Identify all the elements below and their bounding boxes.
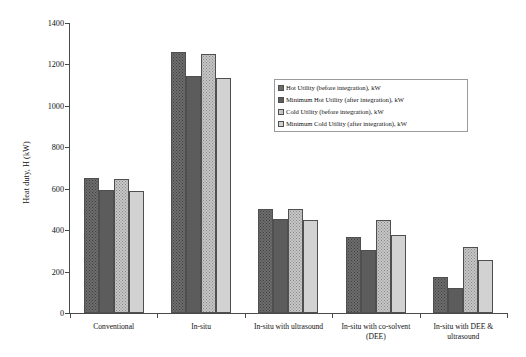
bar: [463, 247, 478, 313]
legend-item: Hot Utility (before integration), kW: [278, 84, 463, 91]
bar: [258, 209, 273, 313]
bar-group: [332, 23, 419, 313]
y-tick-label: 800: [28, 143, 64, 152]
plot-area: [70, 23, 507, 313]
y-tick-label: 1200: [28, 60, 64, 69]
x-tick-label: In-situ with ultrasound: [245, 322, 332, 332]
y-tick-label: 400: [28, 226, 64, 235]
bar-group: [420, 23, 507, 313]
x-tick-mark: [157, 313, 158, 318]
x-tick-label: In-situ: [157, 322, 244, 332]
legend-label: Minimum Cold Utility (after integration)…: [286, 120, 407, 127]
y-tick-label: 1000: [28, 101, 64, 110]
bar: [84, 178, 99, 313]
bar-group: [70, 23, 157, 313]
legend-item: Cold Utility (before integration), kW: [278, 108, 463, 115]
bar: [391, 235, 406, 313]
y-tick-label: 0: [28, 309, 64, 318]
legend-label: Hot Utility (before integration), kW: [286, 84, 381, 91]
bar: [303, 220, 318, 313]
x-tick-mark: [245, 313, 246, 318]
legend-swatch-icon: [278, 85, 284, 91]
bar: [273, 219, 288, 313]
y-tick-label: 1400: [28, 19, 64, 28]
x-tick-label: In-situ with co-solvent (DEE): [332, 322, 419, 341]
bar: [448, 288, 463, 313]
bar: [433, 277, 448, 313]
x-tick-mark: [420, 313, 421, 318]
bar: [346, 237, 361, 313]
bar: [376, 220, 391, 313]
legend-label: Minimum Hot Utility (after integration),…: [286, 96, 404, 103]
bar-group: [245, 23, 332, 313]
x-tick-label: In-situ with DEE & ultrasound: [420, 322, 507, 341]
bar-chart: Heat duty, H (kW) 0200400600800100012001…: [0, 0, 526, 357]
bar: [114, 179, 129, 313]
x-tick-mark: [70, 313, 71, 318]
x-tick-label: Conventional: [70, 322, 157, 332]
legend-label: Cold Utility (before integration), kW: [286, 108, 384, 115]
bar: [478, 260, 493, 313]
bar: [186, 76, 201, 313]
legend-swatch-icon: [278, 109, 284, 115]
y-tick-label: 200: [28, 267, 64, 276]
legend-item: Minimum Hot Utility (after integration),…: [278, 96, 463, 103]
x-tick-mark: [332, 313, 333, 318]
bar: [201, 54, 216, 313]
bar: [99, 190, 114, 313]
legend-swatch-icon: [278, 97, 284, 103]
bar: [216, 78, 231, 313]
bar: [171, 52, 186, 313]
bar: [288, 209, 303, 313]
y-tick-label: 600: [28, 184, 64, 193]
bar-group: [157, 23, 244, 313]
bar: [361, 250, 376, 313]
legend-swatch-icon: [278, 121, 284, 127]
bar: [129, 191, 144, 313]
x-tick-mark: [507, 313, 508, 318]
chart-legend: Hot Utility (before integration), kWMini…: [274, 79, 468, 132]
x-axis-line: [69, 313, 507, 314]
legend-item: Minimum Cold Utility (after integration)…: [278, 120, 463, 127]
